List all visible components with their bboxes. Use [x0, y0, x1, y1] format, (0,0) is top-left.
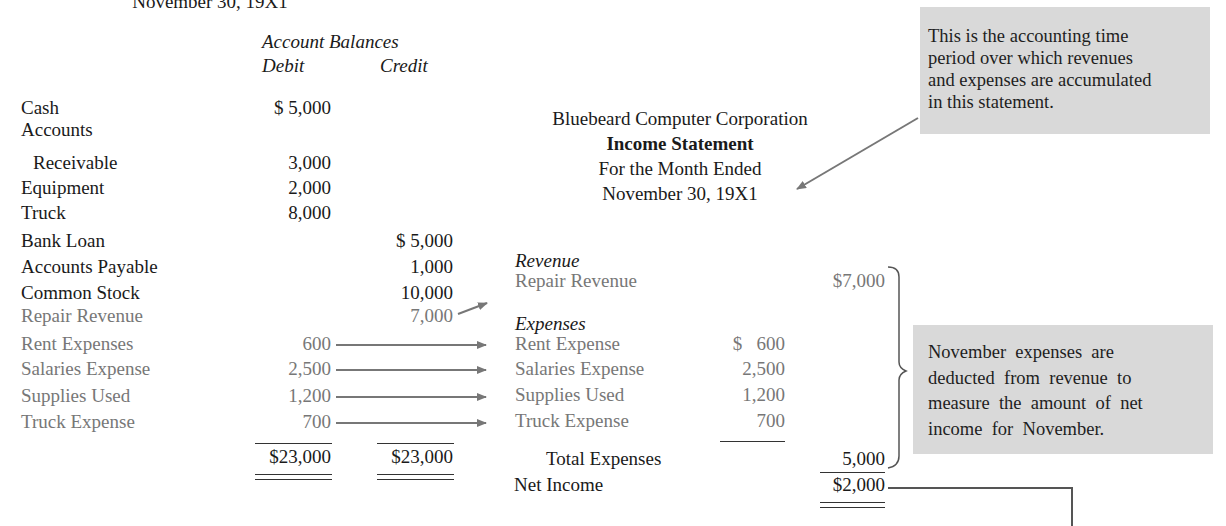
period-pointer-arrow-icon — [797, 118, 918, 189]
connector-graphics — [0, 0, 1226, 526]
net-income-connector-line — [888, 488, 1072, 526]
arrow-right-icon — [458, 303, 487, 314]
curly-brace-icon — [888, 267, 906, 468]
transfer-arrows — [336, 303, 487, 423]
